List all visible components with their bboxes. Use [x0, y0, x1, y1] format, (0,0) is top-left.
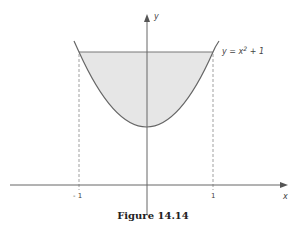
- y-axis-arrow-icon: [144, 14, 150, 22]
- figure-caption: Figure 14.14: [0, 210, 306, 221]
- tick-label-neg1: - 1: [73, 192, 82, 200]
- y-axis-label: y: [153, 12, 159, 21]
- x-axis-label: x: [282, 192, 288, 201]
- x-axis-arrow-icon: [280, 182, 288, 188]
- figure-plot: y x - 1 1 y = x2 + 1: [0, 0, 306, 231]
- tick-label-pos1: 1: [211, 192, 215, 200]
- curve-equation-label: y = x2 + 1: [221, 45, 264, 56]
